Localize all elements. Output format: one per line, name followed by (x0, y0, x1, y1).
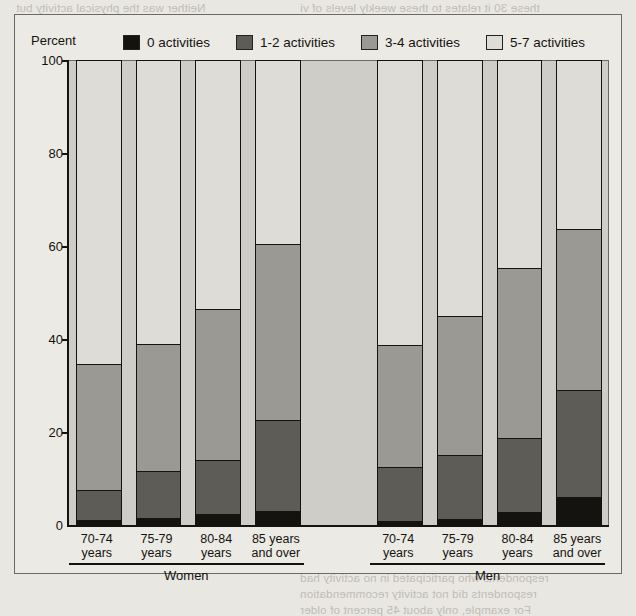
x-axis-label: 85 yearsand over (547, 529, 607, 560)
x-axis-label: 85 yearsand over (246, 529, 306, 560)
bar-segment-5-7-activities (195, 60, 241, 309)
legend-swatch-icon (486, 35, 503, 50)
bleed-text-line: For example, only about 45 percent of ol… (300, 604, 531, 616)
y-axis-tick-label: 100 (39, 53, 63, 68)
legend-swatch-icon (236, 35, 253, 50)
x-axis-label-line: years (488, 547, 548, 561)
x-axis-label-line: and over (547, 547, 607, 561)
bar-segment-0-activities (377, 521, 423, 525)
bar-slot (188, 60, 248, 525)
x-axis-label-line: 70-74 (67, 533, 127, 547)
bar-segment-3-4-activities (556, 229, 602, 390)
bar-segment-1-2-activities (76, 490, 122, 520)
x-axis-label-line: years (67, 547, 127, 561)
bar-segment-3-4-activities (437, 316, 483, 456)
legend-swatch-icon (361, 35, 378, 50)
bar-group-women (69, 60, 308, 525)
bar-segment-5-7-activities (437, 60, 483, 316)
x-axis-label-line: and over (246, 547, 306, 561)
bar-slot (69, 60, 129, 525)
legend-5-7-activities: 5-7 activities (486, 35, 585, 50)
bar-groups (69, 60, 609, 525)
bar-segment-0-activities (437, 519, 483, 525)
x-axis-label-line: 80-84 (186, 533, 246, 547)
y-axis-tick-mark (62, 60, 69, 62)
bar-segment-0-activities (76, 520, 122, 525)
x-axis-label-line: years (186, 547, 246, 561)
legend-0-activities: 0 activities (123, 35, 210, 50)
bar-segment-0-activities (136, 518, 182, 525)
y-axis-tick-label: 60 (39, 239, 63, 254)
bar-slot (248, 60, 308, 525)
x-axis-label: 80-84years (488, 529, 548, 560)
stacked-bar[interactable] (497, 60, 543, 525)
bar-slot (430, 60, 490, 525)
x-label-gap (306, 529, 369, 560)
bar-segment-5-7-activities (76, 60, 122, 364)
bar-segment-1-2-activities (195, 460, 241, 514)
x-label-group: 70-74years75-79years80-84years85 yearsan… (67, 529, 306, 560)
x-axis-label: 80-84years (186, 529, 246, 560)
bar-segment-0-activities (497, 512, 543, 525)
legend-label: 5-7 activities (510, 35, 585, 50)
x-axis-label: 75-79years (127, 529, 187, 560)
bar-group-men (370, 60, 609, 525)
group-label-wrap: Women (67, 563, 306, 583)
y-axis-title: Percent (31, 33, 76, 48)
stacked-bar[interactable] (136, 60, 182, 525)
x-axis-label-line: years (368, 547, 428, 561)
bar-slot (490, 60, 550, 525)
bar-slot (129, 60, 189, 525)
y-axis-tick-label: 20 (39, 425, 63, 440)
y-axis-tick-mark (62, 246, 69, 248)
bar-segment-0-activities (255, 511, 301, 525)
plot-area: 020406080100 (67, 60, 609, 527)
x-axis-label: 70-74years (368, 529, 428, 560)
group-label-gap (306, 563, 369, 583)
legend-label: 3-4 activities (385, 35, 460, 50)
bar-segment-3-4-activities (377, 345, 423, 467)
bar-segment-3-4-activities (136, 344, 182, 471)
legend-label: 0 activities (147, 35, 210, 50)
bar-segment-5-7-activities (377, 60, 423, 345)
stacked-bar[interactable] (556, 60, 602, 525)
stacked-bar[interactable] (255, 60, 301, 525)
group-label-wrap: Men (368, 563, 607, 583)
x-axis-label-line: years (428, 547, 488, 561)
y-axis-tick-label: 0 (39, 518, 63, 533)
stacked-bar[interactable] (437, 60, 483, 525)
y-axis-tick-label: 80 (39, 146, 63, 161)
x-axis-label-line: 75-79 (428, 533, 488, 547)
x-axis-label-line: 85 years (246, 533, 306, 547)
x-axis-label: 70-74years (67, 529, 127, 560)
group-separator (308, 60, 371, 525)
bar-segment-1-2-activities (437, 455, 483, 519)
bar-segment-1-2-activities (497, 438, 543, 512)
bar-segment-3-4-activities (195, 309, 241, 460)
bar-slot (549, 60, 609, 525)
x-axis-label-line: years (127, 547, 187, 561)
legend-1-2-activities: 1-2 activities (236, 35, 335, 50)
bar-segment-3-4-activities (255, 244, 301, 421)
y-axis-tick-label: 40 (39, 332, 63, 347)
bar-segment-5-7-activities (497, 60, 543, 268)
bar-segment-1-2-activities (255, 420, 301, 511)
bar-segment-5-7-activities (255, 60, 301, 244)
bar-segment-5-7-activities (136, 60, 182, 344)
bar-segment-5-7-activities (556, 60, 602, 229)
stacked-bar[interactable] (195, 60, 241, 525)
bar-segment-0-activities (195, 514, 241, 525)
bar-segment-1-2-activities (556, 390, 602, 497)
x-label-group: 70-74years75-79years80-84years85 yearsan… (368, 529, 607, 560)
x-axis-label: 75-79years (428, 529, 488, 560)
y-axis-tick-mark (62, 432, 69, 434)
bar-slot (370, 60, 430, 525)
bar-segment-3-4-activities (76, 364, 122, 490)
group-label-text: Men (368, 565, 607, 583)
x-axis-group-labels: WomenMen (67, 563, 607, 583)
bleed-text-line: Neither was the physical activity but (16, 2, 206, 14)
chart-figure: Percent 0 activities1-2 activities3-4 ac… (14, 14, 622, 574)
stacked-bar[interactable] (377, 60, 423, 525)
group-label-text: Women (67, 565, 306, 583)
stacked-bar[interactable] (76, 60, 122, 525)
